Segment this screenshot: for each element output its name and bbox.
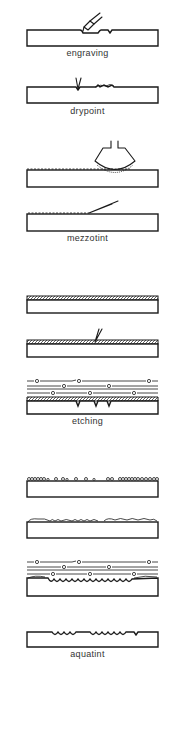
mezzotint-rocker-figure (27, 141, 158, 187)
acid-bath-lines-2 (27, 560, 158, 575)
label-etching: etching (0, 416, 175, 426)
aquatint-finished-figure (27, 632, 158, 647)
etching-needle-figure (27, 329, 158, 357)
scraper-icon (89, 201, 118, 213)
acid-bath-lines (27, 379, 158, 394)
label-aquatint: aquatint (0, 649, 175, 659)
drypoint-figure (27, 78, 158, 103)
aquatint-acid-figure (27, 560, 158, 596)
etching-ground-figure (27, 296, 158, 313)
aquatint-resin-figure (27, 478, 159, 498)
mezzotint-scraper-figure (27, 201, 158, 231)
aquatint-fused-figure (27, 519, 158, 539)
burin-icon (83, 13, 102, 31)
engraving-figure (27, 13, 158, 46)
label-drypoint: drypoint (0, 106, 175, 116)
etching-acid-figure (27, 379, 158, 414)
resin-particles (28, 478, 159, 481)
label-engraving: engraving (0, 48, 175, 58)
rocker-icon (95, 141, 135, 173)
label-mezzotint: mezzotint (0, 233, 175, 243)
